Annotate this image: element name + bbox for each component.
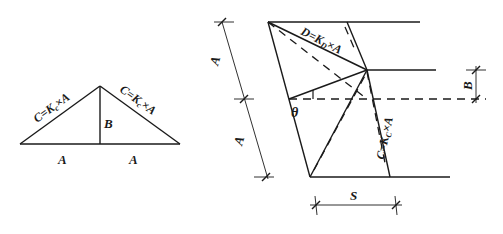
dim-right-label: B bbox=[460, 81, 475, 91]
dim-lower-label: A bbox=[230, 134, 247, 148]
lower-diagonal-line bbox=[310, 70, 367, 177]
right-edge-upper bbox=[347, 22, 367, 70]
diagonal-d-label: D=KD×A bbox=[297, 24, 344, 58]
hip-valley-diagram: C=Kc×A C=Kc×A B A A bbox=[0, 0, 503, 234]
angle-theta-label: θ bbox=[291, 105, 299, 120]
base-right-label: A bbox=[128, 152, 138, 167]
left-dim-line bbox=[222, 22, 268, 179]
height-label: B bbox=[103, 116, 113, 131]
right-slope-label: C=KC×A bbox=[373, 116, 397, 161]
base-left-label: A bbox=[57, 152, 67, 167]
left-dimension bbox=[214, 18, 274, 181]
dim-upper-label: A bbox=[206, 54, 223, 68]
dim-bottom-label: S bbox=[350, 188, 357, 203]
